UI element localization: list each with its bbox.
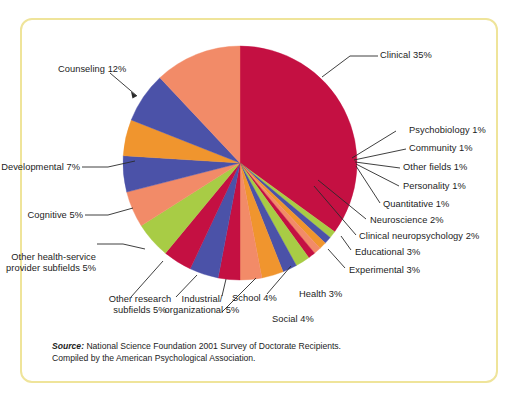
label-educational: Educational 3% [355, 247, 420, 258]
label-community: Community 1% [409, 143, 473, 154]
label-health: Health 3% [299, 289, 342, 300]
leader-quantitative [356, 166, 380, 203]
label-quantitative: Quantitative 1% [383, 199, 449, 210]
label-industrial-line1: Industrial/ [182, 294, 223, 304]
label-other-research-line1: Other research [109, 294, 172, 304]
source-label: Source: [52, 341, 84, 351]
leader-other-research [131, 261, 163, 297]
label-personality: Personality 1% [403, 181, 466, 192]
label-clinical: Clinical 35% [380, 50, 432, 61]
label-other-health-line1: Other health-service [11, 252, 96, 262]
leader-counseling [110, 73, 137, 96]
label-other-health-line2: provider subfields 5% [6, 263, 96, 273]
leader-developmental [82, 161, 135, 167]
leader-community [354, 149, 406, 160]
label-clinical-neuropsychology: Clinical neuropsychology 2% [359, 231, 479, 242]
leader-psychobiology [352, 131, 396, 158]
label-other-health-service-provider-subfields: Other health-service provider subfields … [0, 252, 96, 275]
label-other-research-line2: subfields 5% [113, 305, 166, 315]
pie-chart: Clinical 35% Psychobiology 1% Community … [0, 0, 525, 402]
source-note: Source: National Science Foundation 2001… [52, 341, 452, 364]
label-neuroscience: Neuroscience 2% [370, 215, 444, 226]
label-developmental: Developmental 7% [0, 162, 80, 173]
label-other-research-subfields: Other research subfields 5% [98, 294, 182, 317]
leader-educational [341, 236, 351, 250]
label-psychobiology: Psychobiology 1% [409, 125, 486, 136]
label-cognitive: Cognitive 5% [0, 210, 83, 221]
label-counseling: Counseling 12% [58, 64, 126, 75]
leader-other-health-service [97, 244, 145, 249]
leader-experimental [328, 249, 345, 268]
label-experimental: Experimental 3% [349, 265, 420, 276]
leader-cognitive [85, 208, 133, 215]
leader-health [267, 266, 291, 294]
leader-clinical [322, 56, 378, 77]
source-line1: National Science Foundation 2001 Survey … [84, 341, 341, 351]
source-line2: Compiled by the American Psychological A… [52, 353, 256, 363]
label-social: Social 4% [272, 314, 314, 325]
label-other-fields: Other fields 1% [403, 162, 467, 173]
